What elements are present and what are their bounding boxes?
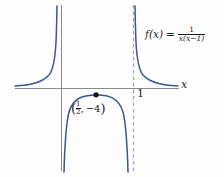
x-tick-label-1: 1 (137, 88, 144, 99)
curve-right-branch (135, 6, 178, 86)
fraction-numerator: 1 (187, 26, 196, 34)
label-close-paren: ) (100, 102, 105, 115)
max-point-marker (93, 92, 98, 97)
function-expression-label: f(x) = 1 x(x−1) (145, 26, 205, 43)
equals-sign: = (166, 29, 175, 40)
function-graph-figure: x 1 f(x) = 1 x(x−1) ( 1 2 , −4 ) (0, 0, 224, 177)
function-fraction: 1 x(x−1) (178, 26, 205, 43)
point-y-value: −4 (86, 104, 101, 114)
label-comma: , (81, 104, 84, 114)
x-axis-label: x (181, 79, 187, 90)
max-point-coordinate-label: ( 1 2 , −4 ) (71, 101, 106, 117)
fraction-denominator: x(x−1) (178, 35, 205, 43)
curve-left-branch (15, 6, 57, 86)
function-name-text: f(x) (145, 29, 163, 40)
